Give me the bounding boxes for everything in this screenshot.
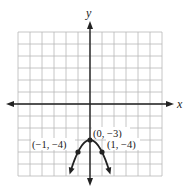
x-axis-label: x (176, 97, 183, 111)
x-axis-right-arrow-icon (166, 101, 174, 107)
curve-left-arrow-icon (69, 167, 75, 175)
coordinate-graph: x y (0, −3) (−1, −4) (1, −4) (0, 0, 185, 187)
y-axis: y (85, 6, 93, 186)
point-left (75, 149, 80, 154)
y-axis-label: y (85, 6, 92, 20)
curve-right-arrow-icon (105, 167, 111, 175)
y-axis-down-arrow-icon (87, 178, 93, 186)
y-axis-up-arrow-icon (87, 21, 93, 29)
x-axis-left-arrow-icon (6, 101, 14, 107)
left-point-label: (−1, −4) (32, 139, 67, 151)
point-vertex (87, 137, 92, 142)
x-axis: x (6, 97, 183, 111)
point-right (99, 149, 104, 154)
right-point-label: (1, −4) (107, 139, 136, 151)
